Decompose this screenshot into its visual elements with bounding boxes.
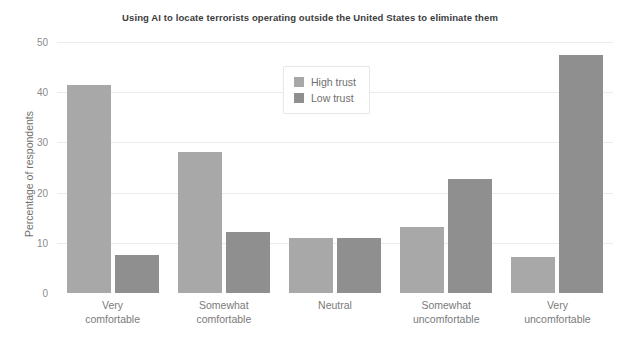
y-tick-label: 30 — [37, 137, 48, 148]
y-tick-label: 0 — [42, 288, 48, 299]
legend-item[interactable]: Low trust — [294, 90, 356, 106]
x-tick-label: Verycomfortable — [57, 298, 168, 326]
bar[interactable] — [115, 255, 159, 293]
x-tick-label: Somewhatcomfortable — [168, 298, 279, 326]
bar[interactable] — [448, 179, 492, 293]
legend-swatch-icon — [294, 77, 304, 87]
chart-legend: High trustLow trust — [283, 66, 370, 114]
bar[interactable] — [400, 227, 444, 293]
x-axis-labels: VerycomfortableSomewhatcomfortableNeutra… — [57, 298, 613, 326]
chart-title: Using AI to locate terrorists operating … — [0, 12, 620, 23]
y-tick-label: 10 — [37, 237, 48, 248]
bar-group — [168, 42, 279, 293]
y-tick-label: 40 — [37, 87, 48, 98]
x-tick-label: Neutral — [279, 298, 390, 326]
y-tick-label: 50 — [37, 37, 48, 48]
bar-chart: Using AI to locate terrorists operating … — [0, 0, 620, 342]
bar[interactable] — [67, 85, 111, 293]
legend-label: High trust — [311, 76, 356, 88]
legend-item[interactable]: High trust — [294, 74, 356, 90]
y-tick-label: 20 — [37, 187, 48, 198]
x-tick-label: Veryuncomfortable — [502, 298, 613, 326]
gridline: 0 — [57, 293, 613, 294]
legend-swatch-icon — [294, 93, 304, 103]
bar[interactable] — [559, 55, 603, 293]
y-axis-title: Percentage of respondents — [23, 59, 35, 289]
x-tick-label: Somewhatuncomfortable — [391, 298, 502, 326]
bar[interactable] — [226, 232, 270, 293]
bar-group — [57, 42, 168, 293]
bar[interactable] — [289, 238, 333, 293]
bar-group — [391, 42, 502, 293]
bar[interactable] — [511, 257, 555, 293]
legend-label: Low trust — [311, 92, 354, 104]
bar[interactable] — [337, 238, 381, 293]
bar-group — [502, 42, 613, 293]
bar[interactable] — [178, 152, 222, 293]
